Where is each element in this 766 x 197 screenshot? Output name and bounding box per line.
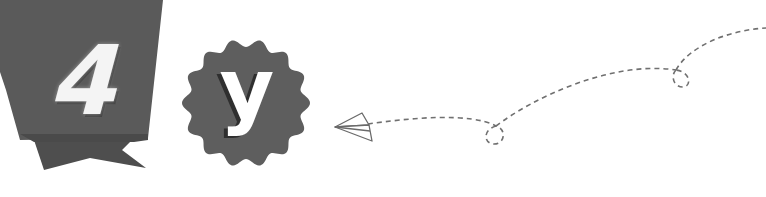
flight-trail bbox=[368, 28, 766, 144]
paper-airplane-icon bbox=[335, 113, 372, 141]
badge-letter: y bbox=[212, 54, 282, 134]
banner-number: 4 bbox=[47, 36, 133, 126]
